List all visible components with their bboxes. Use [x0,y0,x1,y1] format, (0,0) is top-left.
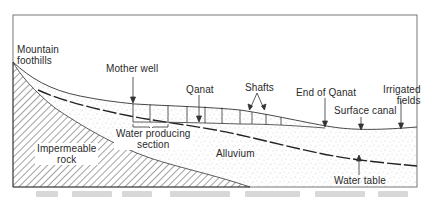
label-surface-canal: Surface canal [334,105,396,116]
label-mother-well: Mother well [106,63,158,74]
cropped-caption-fragment [315,191,365,197]
label-shafts: Shafts [245,82,274,93]
label-qanat: Qanat [186,84,214,95]
label-mountain-foothills: Mountain foothills [17,44,59,66]
cropped-caption-fragment [245,191,300,197]
label-water-producing-section: Water producing section [114,128,193,150]
label-water-table: Water table [334,175,386,186]
label-irrigated-fields: Irrigated fields [383,84,421,106]
cropped-caption-fragment [170,191,230,197]
cropped-caption-fragment [122,191,152,197]
label-impermeable-rock: Impermeable rock [35,143,98,165]
cropped-caption-fragment [36,191,58,197]
qanat-cross-section-diagram [0,0,430,197]
cropped-caption-fragment [378,191,408,197]
cropped-caption-fragment [72,191,112,197]
label-end-of-qanat: End of Qanat [296,87,356,98]
label-alluvium: Alluvium [216,148,255,159]
